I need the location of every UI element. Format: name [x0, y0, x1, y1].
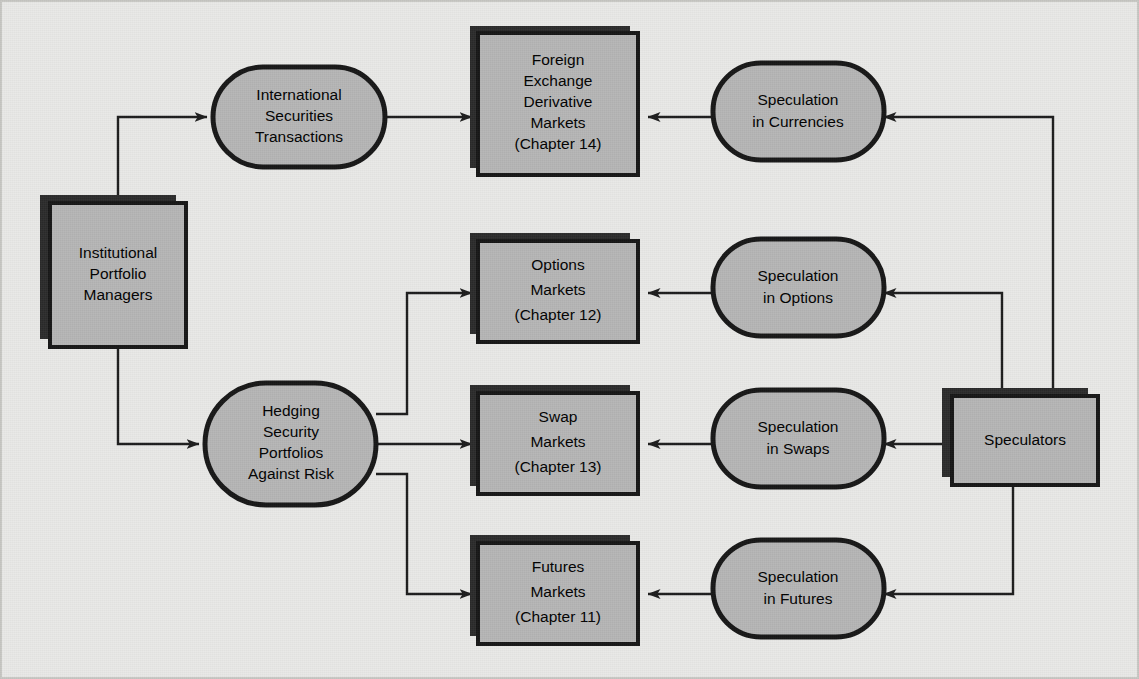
- node-label-line: International: [256, 86, 341, 103]
- node-institutional-portfolio-managers[interactable]: Institutional Portfolio Managers: [40, 195, 186, 347]
- node-label-line: (Chapter 11): [515, 608, 601, 625]
- node-label-line: Transactions: [255, 128, 343, 145]
- connectors: [118, 117, 1053, 594]
- node-label-line: Institutional: [79, 244, 157, 261]
- edge-ipm-to-hedging: [118, 347, 199, 444]
- node-label-line: in Options: [763, 289, 833, 306]
- node-label-line: Markets: [530, 281, 585, 298]
- node-foreign-exchange-derivative-markets[interactable]: Foreign Exchange Derivative Markets (Cha…: [470, 26, 638, 175]
- node-label-line: Security: [263, 423, 319, 440]
- node-label-line: Speculation: [757, 568, 838, 585]
- node-label-line: (Chapter 14): [514, 135, 601, 152]
- node-label-line: Speculation: [757, 418, 838, 435]
- node-hedging-security-portfolios[interactable]: Hedging Security Portfolios Against Risk: [205, 383, 376, 505]
- node-futures-markets[interactable]: Futures Markets (Chapter 11): [470, 535, 638, 644]
- node-label-line: Managers: [84, 286, 153, 303]
- node-label-line: Swap: [539, 408, 578, 425]
- node-label-line: Hedging: [262, 402, 320, 419]
- flowchart: Institutional Portfolio Managers Interna…: [0, 0, 1139, 679]
- node-label-line: Markets: [530, 583, 585, 600]
- node-label-line: Derivative: [524, 93, 593, 110]
- edge-hedging-to-futures-markets: [376, 474, 472, 594]
- node-label-line: in Currencies: [752, 113, 844, 130]
- edge-speculators-to-speculation-futures: [884, 485, 1013, 594]
- node-label-line: (Chapter 12): [514, 306, 601, 323]
- node-label-line: in Futures: [764, 590, 833, 607]
- node-label-line: Exchange: [524, 72, 593, 89]
- node-label-line: Markets: [530, 114, 585, 131]
- edge-speculators-to-speculation-currencies: [884, 117, 1053, 396]
- node-label-line: Against Risk: [248, 465, 334, 482]
- edge-speculators-to-speculation-options: [884, 293, 1002, 396]
- node-label-line: in Swaps: [767, 440, 830, 457]
- node-swap-markets[interactable]: Swap Markets (Chapter 13): [470, 385, 638, 494]
- node-options-markets[interactable]: Options Markets (Chapter 12): [470, 233, 638, 342]
- node-label-line: Portfolio: [90, 265, 147, 282]
- node-label-line: Options: [531, 256, 585, 273]
- node-label-line: Foreign: [532, 51, 585, 68]
- node-label-line: Speculation: [757, 267, 838, 284]
- node-label-line: Portfolios: [259, 444, 324, 461]
- node-label-line: Speculation: [757, 91, 838, 108]
- node-speculation-in-futures[interactable]: Speculation in Futures: [713, 540, 884, 637]
- node-label-line: Securities: [265, 107, 333, 124]
- node-speculation-in-swaps[interactable]: Speculation in Swaps: [713, 390, 884, 487]
- node-label-line: (Chapter 13): [514, 458, 601, 475]
- edge-ipm-to-international-securities: [118, 117, 207, 203]
- node-speculation-in-options[interactable]: Speculation in Options: [713, 239, 884, 336]
- diagram-canvas: Institutional Portfolio Managers Interna…: [0, 0, 1139, 679]
- node-international-securities-transactions[interactable]: International Securities Transactions: [213, 67, 385, 167]
- node-label-line: Futures: [532, 558, 585, 575]
- node-label-line: Markets: [530, 433, 585, 450]
- node-label-line: Speculators: [984, 431, 1066, 448]
- node-speculators[interactable]: Speculators: [942, 388, 1098, 485]
- edge-hedging-to-options-markets: [376, 293, 472, 414]
- node-speculation-in-currencies[interactable]: Speculation in Currencies: [713, 63, 884, 160]
